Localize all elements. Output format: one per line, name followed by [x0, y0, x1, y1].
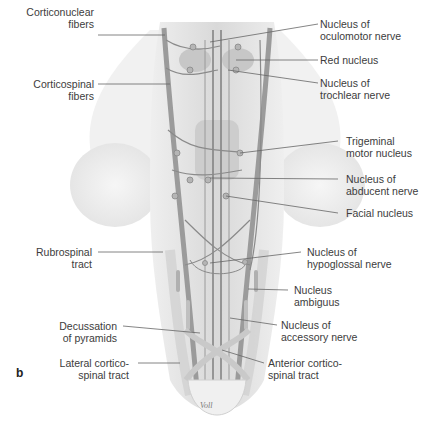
label-nucleus-of-trochlear-nerve: Nucleus of trochlear nerve — [320, 77, 390, 101]
left-red-nucleus — [179, 48, 211, 72]
label-line: Nucleus of — [307, 246, 392, 258]
label-line: Anterior cortico- — [268, 357, 342, 369]
label-line: Lateral cortico- — [60, 357, 129, 369]
label-nucleus-of-hypoglossal-nerve: Nucleus of hypoglossal nerve — [307, 246, 392, 270]
brainstem-diagram: Voll Corticonuclear fibers Corticosp — [0, 0, 434, 423]
label-nucleus-ambiguus: Nucleus ambiguus — [294, 284, 340, 308]
label-line: Rubrospinal — [36, 246, 92, 258]
label-anterior-corticospinal-tract: Anterior cortico- spinal tract — [268, 357, 342, 381]
label-line: motor nucleus — [346, 147, 412, 159]
label-line: Decussation — [59, 320, 117, 332]
label-line: fibers — [33, 90, 94, 102]
label-line: fibers — [26, 18, 94, 30]
label-line: Nucleus — [294, 284, 340, 296]
label-rubrospinal-tract: Rubrospinal tract — [36, 246, 92, 270]
label-red-nucleus: Red nucleus — [320, 54, 378, 66]
label-line: Nucleus of — [320, 18, 401, 30]
label-line: Corticonuclear — [26, 6, 94, 18]
label-line: tract — [36, 258, 92, 270]
panel-letter: b — [16, 366, 23, 380]
label-facial-nucleus: Facial nucleus — [346, 207, 413, 219]
label-corticospinal-fibers: Corticospinal fibers — [33, 78, 94, 102]
label-nucleus-of-accessory-nerve: Nucleus of accessory nerve — [281, 319, 357, 343]
label-line: oculomotor nerve — [320, 30, 401, 42]
artist-signature: Voll — [200, 401, 213, 410]
label-nucleus-of-abducent-nerve: Nucleus of abducent nerve — [346, 173, 418, 197]
label-line: spinal tract — [60, 369, 129, 381]
label-line: Nucleus of — [346, 173, 418, 185]
label-line: spinal tract — [268, 369, 342, 381]
label-line: abducent nerve — [346, 185, 418, 197]
label-nucleus-of-oculomotor-nerve: Nucleus of oculomotor nerve — [320, 18, 401, 42]
label-trigeminal-motor-nucleus: Trigeminal motor nucleus — [346, 135, 412, 159]
label-lateral-corticospinal-tract: Lateral cortico- spinal tract — [60, 357, 129, 381]
label-line: Nucleus of — [320, 77, 390, 89]
left-middle-cerebellar-peduncle — [70, 143, 160, 227]
label-line: Facial nucleus — [346, 207, 413, 219]
label-decussation-of-pyramids: Decussation of pyramids — [59, 320, 117, 344]
label-line: Nucleus of — [281, 319, 357, 331]
label-line: trochlear nerve — [320, 89, 390, 101]
label-line: Trigeminal — [346, 135, 412, 147]
label-line: accessory nerve — [281, 331, 357, 343]
label-line: Corticospinal — [33, 78, 94, 90]
label-line: hypoglossal nerve — [307, 258, 392, 270]
label-line: of pyramids — [59, 332, 117, 344]
label-line: ambiguus — [294, 296, 340, 308]
label-line: Red nucleus — [320, 54, 378, 66]
label-corticonuclear-fibers: Corticonuclear fibers — [26, 6, 94, 30]
